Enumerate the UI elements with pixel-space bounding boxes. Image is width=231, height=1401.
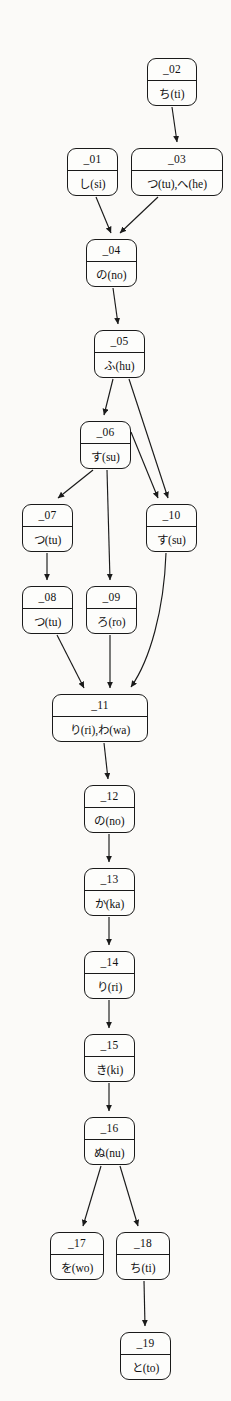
node-id: _06: [81, 422, 130, 444]
node-id: _01: [68, 149, 117, 171]
node-label: ぬ(nu): [85, 1140, 134, 1164]
edge-16-17: [83, 1166, 101, 1226]
node-id: _07: [23, 505, 72, 527]
edge-08-11: [57, 635, 84, 688]
node-id: _04: [87, 240, 136, 262]
node-label: の(no): [87, 262, 136, 286]
node-label: の(no): [85, 808, 134, 832]
node-label: す(su): [147, 527, 196, 551]
graph-node-10[interactable]: _10 す(su): [146, 504, 197, 552]
node-label: す(su): [81, 444, 130, 468]
edge-06-10: [131, 432, 158, 498]
graph-node-08[interactable]: _08 つ(tu): [22, 586, 73, 634]
node-id: _05: [95, 331, 144, 353]
node-id: _15: [85, 1035, 134, 1057]
edge-03-04: [120, 197, 158, 233]
node-id: _16: [85, 1118, 134, 1140]
node-id: _10: [147, 505, 196, 527]
node-id: _08: [23, 587, 72, 609]
graph-node-18[interactable]: _18 ち(ti): [116, 1232, 170, 1280]
graph-node-14[interactable]: _14 り(ri): [84, 951, 135, 999]
node-label: つ(tu): [23, 527, 72, 551]
node-label: り(ri): [85, 974, 134, 998]
node-label: か(ka): [85, 891, 134, 915]
node-label: を(wo): [51, 1255, 103, 1279]
graph-node-12[interactable]: _12 の(no): [84, 785, 135, 833]
edge-02-03: [172, 107, 177, 142]
edge-01-04: [96, 197, 111, 233]
node-label: り(ri),わ(wa): [53, 717, 147, 741]
graph-node-07[interactable]: _07 つ(tu): [22, 504, 73, 552]
node-id: _19: [121, 1333, 170, 1355]
graph-node-01[interactable]: _01 し(si): [67, 148, 118, 196]
node-label: ち(ti): [117, 1255, 169, 1279]
graph-node-11[interactable]: _11 り(ri),わ(wa): [52, 694, 148, 742]
graph-node-03[interactable]: _03 つ(tu),へ(he): [131, 148, 223, 196]
node-id: _17: [51, 1233, 103, 1255]
graph-node-09[interactable]: _09 ろ(ro): [86, 586, 137, 634]
graph-node-06[interactable]: _06 す(su): [80, 421, 131, 469]
node-label: ろ(ro): [87, 609, 136, 633]
node-id: _02: [148, 59, 196, 81]
graph-node-15[interactable]: _15 き(ki): [84, 1034, 135, 1082]
node-label: し(si): [68, 171, 117, 195]
diagram-canvas: _01 し(si) _02 ち(ti) _03 つ(tu),へ(he) _04 …: [0, 0, 231, 1401]
node-id: _12: [85, 786, 134, 808]
edge-16-18: [120, 1166, 138, 1226]
node-id: _14: [85, 952, 134, 974]
graph-node-16[interactable]: _16 ぬ(nu): [84, 1117, 135, 1165]
edge-06-09: [107, 470, 110, 580]
node-label: ち(ti): [148, 81, 196, 105]
graph-node-17[interactable]: _17 を(wo): [50, 1232, 104, 1280]
node-label: つ(tu),へ(he): [132, 171, 222, 195]
edge-06-07: [58, 470, 93, 498]
graph-node-19[interactable]: _19 と(to): [120, 1332, 171, 1380]
graph-node-13[interactable]: _13 か(ka): [84, 868, 135, 916]
graph-node-05[interactable]: _05 ふ(hu): [94, 330, 145, 378]
node-label: き(ki): [85, 1057, 134, 1081]
node-id: _11: [53, 695, 147, 717]
edge-04-05: [113, 288, 118, 324]
node-id: _09: [87, 587, 136, 609]
node-id: _03: [132, 149, 222, 171]
graph-node-02[interactable]: _02 ち(ti): [147, 58, 197, 106]
node-label: と(to): [121, 1355, 170, 1379]
edge-11-12: [104, 743, 108, 779]
edge-05-10: [129, 379, 168, 498]
node-id: _18: [117, 1233, 169, 1255]
node-label: ふ(hu): [95, 353, 144, 377]
graph-node-04[interactable]: _04 の(no): [86, 239, 137, 287]
node-label: つ(tu): [23, 609, 72, 633]
edge-05-06: [104, 379, 113, 415]
node-id: _13: [85, 869, 134, 891]
edge-18-19: [144, 1281, 145, 1326]
